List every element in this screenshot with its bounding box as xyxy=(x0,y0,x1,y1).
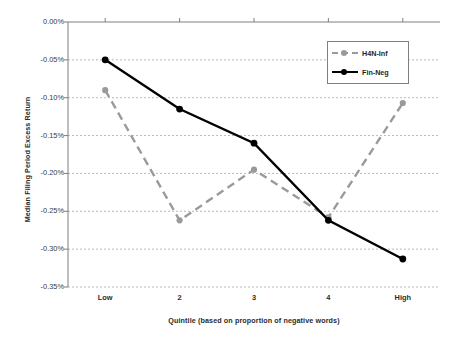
chart-container: 0.00%-0.05%-0.10%-0.15%-0.20%-0.25%-0.30… xyxy=(0,0,451,340)
y-axis-title: Median Filing Period Excess Return xyxy=(23,60,32,260)
x-tick-label-high: High xyxy=(368,293,438,302)
legend-label-h4n-inf: H4N-Inf xyxy=(362,49,388,58)
legend-item-h4n-inf: H4N-Inf xyxy=(332,46,408,60)
x-tick-label-2: 2 xyxy=(145,293,215,302)
legend-swatch-solid-icon xyxy=(332,66,358,78)
x-axis-title: Quintile (based on proportion of negativ… xyxy=(68,316,440,325)
chart-legend: H4N-Inf Fin-Neg xyxy=(327,41,409,84)
x-tick-label-4: 4 xyxy=(293,293,363,302)
legend-label-fin-neg: Fin-Neg xyxy=(362,68,389,77)
legend-swatch-dashed-icon xyxy=(332,47,358,59)
x-tick-label-low: Low xyxy=(70,293,140,302)
legend-item-fin-neg: Fin-Neg xyxy=(332,65,408,79)
x-tick-label-3: 3 xyxy=(219,293,289,302)
